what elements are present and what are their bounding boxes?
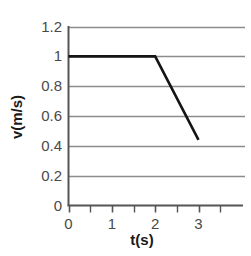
y-tick-label-1: 1 [54,47,62,64]
y-tick-label-0.2: 0.2 [41,167,62,184]
x-axis-title: t(s) [130,231,153,248]
y-tick-label-0.8: 0.8 [41,77,62,94]
chart-canvas: 00.20.40.60.811.2 0123 t(s) v(m/s) [0,0,251,256]
x-tick-label-2: 2 [151,215,159,232]
chart-background [0,0,251,256]
y-tick-label-0: 0 [54,197,62,214]
velocity-time-chart: 00.20.40.60.811.2 0123 t(s) v(m/s) [0,0,251,256]
y-tick-label-1.2: 1.2 [41,18,62,35]
x-tick-label-0: 0 [64,215,72,232]
y-tick-label-0.6: 0.6 [41,107,62,124]
y-axis-title: v(m/s) [8,95,25,139]
x-tick-label-1: 1 [108,215,116,232]
x-tick-label-3: 3 [194,215,202,232]
y-tick-label-0.4: 0.4 [41,137,62,154]
